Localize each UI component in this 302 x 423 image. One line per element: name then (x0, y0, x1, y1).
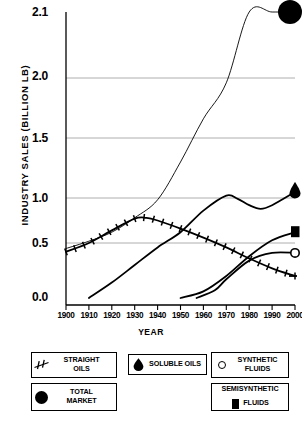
legend-label-semisynthetic-fluids-line1: SEMISYNTHETIC (221, 385, 278, 398)
legend-item-semisynthetic-fluids[interactable]: SEMISYNTHETIC FLUIDS (211, 383, 289, 411)
x-axis-title: YEAR (0, 327, 302, 337)
legend-label-semisynthetic-fluids-line2: FLUIDS (243, 399, 268, 408)
endpoint-marker-total-market (278, 0, 302, 24)
legend-item-total-market[interactable]: TOTAL MARKET (31, 383, 117, 411)
open-circle-icon (214, 358, 229, 373)
chart-page: INDUSTRY SALES (BILLION LB) 2.1 2.0 1.5 … (0, 0, 302, 423)
teardrop-icon (131, 357, 146, 372)
legend-label-total-market-line2: MARKET (66, 396, 96, 405)
endpoint-marker-synthetic-fluids (291, 249, 299, 257)
series-total-market (66, 7, 295, 249)
legend-label-synthetic-fluids-line2: FLUIDS (245, 364, 270, 373)
gridlines (66, 78, 295, 243)
hatched-line-icon (34, 358, 49, 373)
x-tick-label-2000: 2000 (282, 311, 302, 320)
legend-item-soluble-oils[interactable]: SOLUBLE OILS (128, 354, 207, 375)
chart-container: INDUSTRY SALES (BILLION LB) 2.1 2.0 1.5 … (0, 0, 302, 340)
legend-label-straight-oils-line2: OILS (73, 364, 89, 373)
endpoint-marker-semisynthetic-fluids (291, 226, 300, 237)
plot-svg (0, 0, 302, 340)
legend-item-synthetic-fluids[interactable]: SYNTHETIC FLUIDS (211, 352, 289, 378)
series-layer (65, 7, 295, 298)
legend-label-soluble-oils: SOLUBLE OILS (146, 360, 204, 369)
legend-item-straight-oils[interactable]: STRAIGHT OILS (31, 352, 117, 378)
x-tick-marks (66, 305, 295, 310)
chart-legend: STRAIGHT OILS SOLUBLE OILS SYNTHETIC FLU… (0, 346, 302, 423)
filled-square-icon (231, 398, 240, 409)
series-semisynthetic-fluids (181, 232, 296, 298)
filled-circle-icon (34, 390, 49, 405)
endpoint-marker-soluble-oils (290, 182, 301, 199)
